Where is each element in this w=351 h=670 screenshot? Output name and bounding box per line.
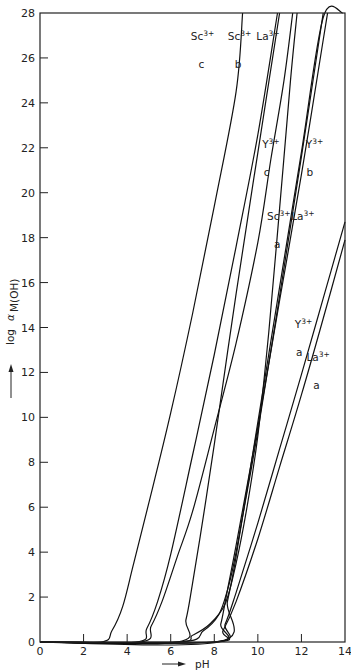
curve-letter: b xyxy=(307,166,314,178)
y-tick-label: 0 xyxy=(28,636,35,649)
x-tick-label: 8 xyxy=(211,645,218,658)
ion-label: Sc3+ xyxy=(191,29,215,42)
curve-letter: b xyxy=(235,58,242,70)
curve-letter: a xyxy=(296,346,302,358)
curve-sc3-b xyxy=(40,13,278,643)
x-tick-label: 10 xyxy=(251,645,265,658)
y-tick-label: 10 xyxy=(21,411,35,424)
ion-label: La3+ xyxy=(306,350,329,363)
x-tick-label: 12 xyxy=(294,645,308,658)
y-axis-arrow xyxy=(9,364,14,398)
y-axis-label: log α M(OH) xyxy=(4,279,20,345)
y-tick-label: 22 xyxy=(21,142,35,155)
curve-y3-b xyxy=(40,13,323,643)
y-tick-label: 2 xyxy=(28,591,35,604)
x-tick-label: 6 xyxy=(167,645,174,658)
y-tick-label: 8 xyxy=(28,456,35,469)
y-tick-label: 12 xyxy=(21,366,35,379)
y-tick-label: 26 xyxy=(21,52,35,65)
ion-label: Y3+ xyxy=(261,137,279,150)
y-axis-log-text: log xyxy=(4,329,16,345)
curve-letter: c xyxy=(264,166,270,178)
curve-la3-b xyxy=(40,13,328,643)
y-tick-label: 28 xyxy=(21,7,35,20)
curve-letter: a xyxy=(274,238,280,250)
x-axis-label: pH xyxy=(195,658,210,670)
y-tick-label: 6 xyxy=(28,501,35,514)
y-axis-alpha-text: α xyxy=(4,314,16,321)
y-tick-label: 24 xyxy=(21,97,35,110)
curve-sc3-c xyxy=(40,13,243,643)
y-tick-label: 16 xyxy=(21,277,35,290)
axis-ticks: 024681012141618202224262802468101214 xyxy=(21,7,351,658)
ion-label: Y3+ xyxy=(305,137,323,150)
chart: 024681012141618202224262802468101214 Sc3… xyxy=(0,0,351,670)
x-tick-label: 14 xyxy=(338,645,351,658)
y-tick-label: 18 xyxy=(21,232,35,245)
ion-label: Y3+ xyxy=(294,317,312,330)
curve-letter: a xyxy=(313,379,319,391)
x-axis-arrow xyxy=(162,662,186,667)
x-tick-label: 0 xyxy=(37,645,44,658)
x-tick-label: 4 xyxy=(124,645,131,658)
curve-la3-c xyxy=(40,13,280,644)
y-axis-sub-text: M(OH) xyxy=(8,279,20,312)
curve-letter: c xyxy=(199,58,205,70)
ion-label: La3+ xyxy=(291,209,314,222)
y-tick-label: 4 xyxy=(28,546,35,559)
ion-label: La3+ xyxy=(256,29,279,42)
x-tick-label: 2 xyxy=(80,645,87,658)
ion-label: Sc3+ xyxy=(228,29,252,42)
ion-label: Sc3+ xyxy=(267,209,291,222)
y-tick-label: 14 xyxy=(21,322,35,335)
y-tick-label: 20 xyxy=(21,187,35,200)
curve-y3-c xyxy=(40,13,297,642)
curve-labels: Sc3+cSc3+bLa3+Y3+cY3+bSc3+aLa3+Y3+aLa3+a xyxy=(191,29,330,391)
